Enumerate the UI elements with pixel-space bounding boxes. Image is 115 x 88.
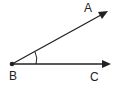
label-c: C [90, 71, 99, 83]
label-b: B [9, 70, 17, 82]
label-a: A [84, 2, 92, 14]
arrowhead-c-icon [102, 60, 111, 68]
ray-ba [12, 15, 101, 64]
angle-arc-marker [35, 52, 37, 64]
vertex-b-dot [10, 62, 15, 67]
angle-diagram: A B C [0, 0, 115, 88]
arrowhead-a-icon [98, 11, 108, 19]
